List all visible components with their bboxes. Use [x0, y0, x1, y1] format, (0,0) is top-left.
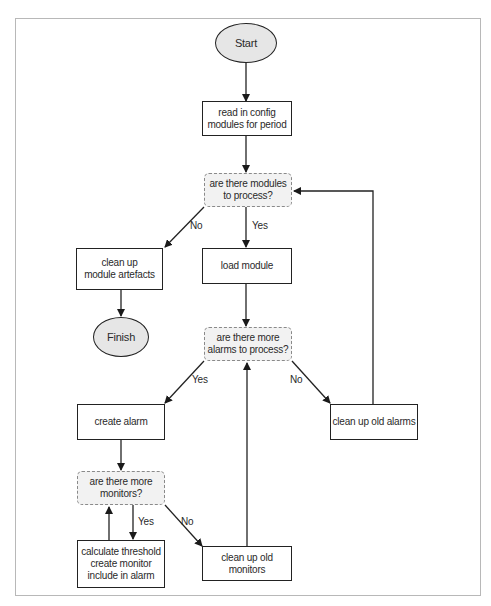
- load-module-label: load module: [221, 260, 273, 272]
- edge-label-alarms-no: No: [290, 374, 302, 385]
- cleanup-artefacts-label: clean up module artefacts: [84, 257, 155, 281]
- edge-cleanup-alarms-to-modules: [294, 191, 373, 404]
- edge-label-monitors-yes: Yes: [138, 516, 154, 527]
- cleanup-monitors-label: clean up old monitors: [203, 552, 291, 576]
- alarms-decision-label: are there more alarms to process?: [208, 332, 289, 356]
- calc-threshold-node: calculate threshold create monitor inclu…: [77, 540, 165, 588]
- finish-node: Finish: [93, 317, 149, 357]
- start-label: Start: [235, 37, 257, 49]
- start-node: Start: [215, 23, 277, 63]
- edge-label-alarms-yes: Yes: [192, 374, 208, 385]
- read-config-label: read in config modules for period: [207, 107, 286, 131]
- cleanup-monitors-node: clean up old monitors: [202, 546, 292, 581]
- cleanup-alarms-node: clean up old alarms: [330, 404, 418, 440]
- read-config-node: read in config modules for period: [202, 101, 292, 136]
- modules-decision-node: are there modules to process?: [204, 173, 292, 207]
- create-alarm-node: create alarm: [77, 404, 165, 440]
- alarms-decision-node: are there more alarms to process?: [204, 327, 292, 361]
- flowchart-connectors: [0, 0, 491, 606]
- finish-label: Finish: [107, 331, 135, 343]
- edge-label-modules-yes: Yes: [252, 220, 268, 231]
- cleanup-alarms-label: clean up old alarms: [333, 416, 416, 428]
- monitors-decision-label: are there more monitors?: [90, 476, 153, 500]
- cleanup-artefacts-node: clean up module artefacts: [76, 248, 163, 290]
- load-module-node: load module: [202, 248, 292, 284]
- create-alarm-label: create alarm: [94, 416, 147, 428]
- monitors-decision-node: are there more monitors?: [77, 471, 165, 505]
- edge-label-modules-no: No: [190, 220, 202, 231]
- calc-threshold-label: calculate threshold create monitor inclu…: [81, 546, 161, 582]
- edge-label-monitors-no: No: [181, 516, 193, 527]
- modules-decision-label: are there modules to process?: [209, 178, 286, 202]
